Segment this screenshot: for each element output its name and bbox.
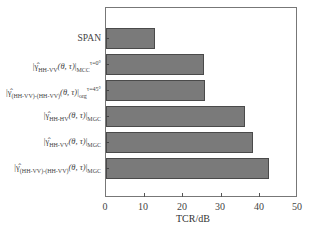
x-tick-label: 0	[95, 201, 115, 212]
bar-hhvv-hhvv-org	[106, 80, 205, 101]
x-tick-label: 50	[287, 201, 307, 212]
bar-hhhv-mgc	[106, 106, 245, 127]
y-tick	[106, 116, 109, 117]
bar-hhvv-mcc	[106, 54, 204, 75]
y-label-hhvv-hhvv-org: |γ̂(HH-VV)-(HH-VV)(θ, τ)|orgτ=45°	[6, 84, 101, 101]
label-method: MCC	[76, 67, 89, 73]
y-label-hhhv-mgc: |γ̂HH-HV(θ, τ)|MGC	[44, 110, 101, 124]
x-tick	[144, 193, 145, 197]
label-args: (θ, τ)	[68, 136, 85, 146]
plot-area	[105, 7, 297, 197]
label-method: org	[79, 93, 87, 99]
x-tick	[259, 193, 260, 197]
x-axis-label: TCR/dB	[176, 213, 210, 224]
y-label-span: SPAN	[78, 33, 101, 43]
label-subscript: HH-VV	[38, 67, 57, 73]
x-tick	[182, 193, 183, 197]
y-tick	[106, 168, 109, 169]
y-label-hhvv-mgc: |γ̂HH-VV(θ, τ)|MGC	[44, 136, 101, 150]
label-args: (θ, τ)	[58, 61, 75, 71]
label-subscript: (HH-VV)-(HH-VV)	[20, 168, 69, 174]
y-label-hhvv-mcc: |γ̂HH-VV(θ, τ)|MCCτ=0°	[33, 58, 101, 75]
label-subscript: HH-VV	[49, 142, 68, 148]
label-args: (θ, τ)	[68, 110, 85, 120]
label-method: MGC	[87, 168, 101, 174]
x-tick-label: 30	[210, 201, 230, 212]
y-label-hhvv-hhvv-mgc: |γ̂(HH-VV)-(HH-VV)(θ, τ)|MGC	[14, 162, 101, 176]
bar-span	[106, 28, 155, 49]
y-tick	[106, 142, 109, 143]
label-subscript: (HH-VV)-(HH-VV)	[11, 93, 60, 99]
x-tick	[221, 193, 222, 197]
y-tick	[106, 64, 109, 65]
label-subscript: HH-HV	[49, 116, 68, 122]
label-method: MGC	[87, 116, 101, 122]
label-method: MGC	[87, 142, 101, 148]
y-tick	[106, 90, 109, 91]
label-superscript: τ=45°	[87, 86, 101, 92]
bar-hhvv-mgc	[106, 132, 253, 153]
x-tick-label: 10	[133, 201, 153, 212]
label-args: (θ, τ)	[60, 87, 77, 97]
bar-hhvv-hhvv-mgc	[106, 158, 269, 179]
label-superscript: τ=0°	[90, 60, 101, 66]
x-tick-label: 20	[172, 201, 192, 212]
y-tick	[106, 38, 109, 39]
x-tick-label: 40	[249, 201, 269, 212]
label-args: (θ, τ)	[68, 162, 85, 172]
